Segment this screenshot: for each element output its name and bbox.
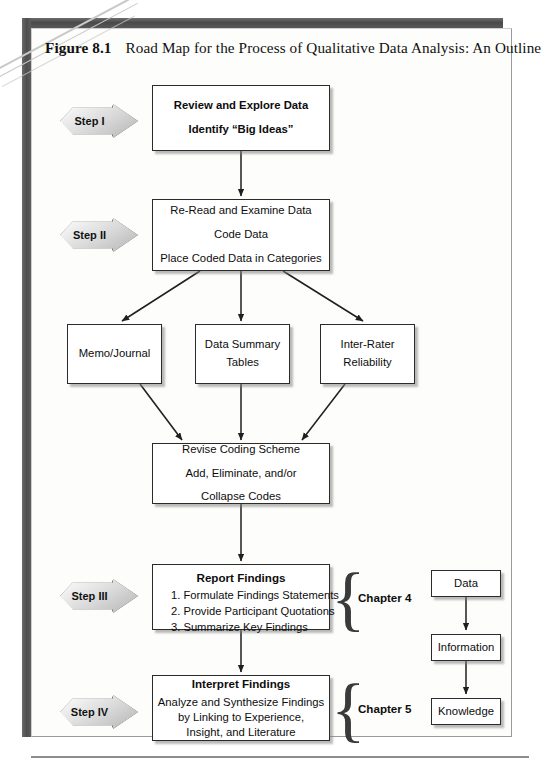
box-list-item: 2. Provide Participant Quotations — [153, 604, 329, 620]
box-line: Memo/Journal — [79, 348, 151, 360]
box-line: Information — [438, 642, 495, 654]
box-data-summary-tables: Data Summary Tables — [195, 324, 290, 384]
box-list-item: 3. Summarize Key Findings — [153, 620, 329, 636]
box-line: by Linking to Experience, — [178, 712, 304, 724]
page-frame-left-edge — [22, 18, 31, 737]
box-line: Identify “Big Ideas” — [189, 124, 294, 136]
step-label: Step IV — [60, 695, 113, 729]
page-bottom-rule — [31, 756, 529, 758]
box-line: Data — [454, 578, 478, 590]
figure-number: Figure 8.1 — [45, 39, 112, 56]
box-line: Review and Explore Data — [174, 100, 308, 112]
box-memo-journal: Memo/Journal — [67, 324, 162, 384]
step-label: Step II — [60, 218, 113, 252]
box-report-findings: Report Findings 1. Formulate Findings St… — [152, 564, 330, 630]
figure-title: Road Map for the Process of Qualitative … — [126, 39, 542, 56]
box-revise-coding-scheme: Revise Coding Scheme Add, Eliminate, and… — [152, 443, 330, 504]
box-interpret-findings: Interpret Findings Analyze and Synthesiz… — [152, 675, 330, 741]
box-review-and-explore-data: Review and Explore Data Identify “Big Id… — [152, 85, 330, 151]
box-line: Add, Eliminate, and/or — [185, 468, 296, 480]
box-list-item: 1. Formulate Findings Statements — [153, 588, 329, 604]
chapter-4-label: Chapter 4 — [358, 591, 411, 604]
box-line: Knowledge — [438, 706, 494, 718]
box-information: Information — [431, 634, 501, 661]
box-line: Reliability — [343, 357, 391, 369]
figure-caption: Figure 8.1Road Map for the Process of Qu… — [45, 39, 541, 57]
box-reread-and-examine-data: Re-Read and Examine Data Code Data Place… — [152, 199, 330, 271]
step-arrow-2: Step II — [60, 218, 138, 252]
box-line: Tables — [226, 357, 259, 369]
box-data: Data — [431, 570, 501, 597]
box-inter-rater-reliability: Inter-Rater Reliability — [320, 324, 415, 384]
box-line: Code Data — [214, 229, 268, 241]
box-knowledge: Knowledge — [431, 698, 501, 725]
box-line: Insight, and Literature — [186, 727, 295, 739]
step-arrow-3: Step III — [60, 579, 138, 613]
box-header: Interpret Findings — [192, 678, 291, 690]
step-label: Step III — [60, 579, 113, 613]
box-line: Place Coded Data in Categories — [160, 253, 321, 265]
chapter-5-label: Chapter 5 — [358, 702, 411, 715]
step-arrow-4: Step IV — [60, 695, 138, 729]
box-line: Inter-Rater — [341, 339, 395, 351]
box-line: Analyze and Synthesize Findings — [158, 697, 324, 709]
box-line: Data Summary — [205, 339, 280, 351]
box-line: Revise Coding Scheme — [182, 444, 300, 456]
box-line: Collapse Codes — [201, 491, 281, 503]
box-line: Re-Read and Examine Data — [170, 205, 311, 217]
page-frame-top-edge — [22, 18, 503, 28]
box-header: Report Findings — [153, 572, 329, 584]
step-arrow-1: Step I — [60, 104, 138, 138]
step-label: Step I — [60, 104, 113, 138]
